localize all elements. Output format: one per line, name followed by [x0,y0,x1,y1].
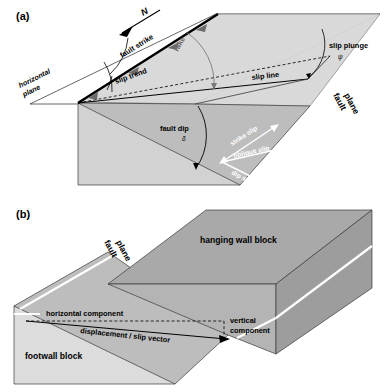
slip-plunge-symbol: ψ [338,53,343,61]
vertical-component-label-line2: component [230,326,270,335]
panel-b-diagram: (b) hanging wall block footwall block fa… [0,196,387,392]
footwall-block-label: footwall block [25,351,83,361]
fault-geometry-figure: N [0,0,387,392]
north-label: N [139,6,150,18]
vertical-component-label-line1: vertical [230,316,256,325]
panel-a-diagram: N [0,0,387,196]
slip-plunge-label: slip plunge [329,41,368,50]
panel-b: (b) hanging wall block footwall block fa… [0,196,387,392]
horizontal-component-label: horizontal component [46,309,124,318]
oblique-slip-arrowhead [287,143,296,150]
panel-a-label: (a) [16,10,30,22]
north-arrow-head [119,26,133,37]
fault-dip-symbol: δ [182,135,186,142]
hanging-wall-block-label: hanging wall block [200,235,277,245]
fault-dip-label: fault dip [160,124,189,133]
panel-b-label: (b) [16,208,30,220]
panel-a: N [0,0,387,196]
